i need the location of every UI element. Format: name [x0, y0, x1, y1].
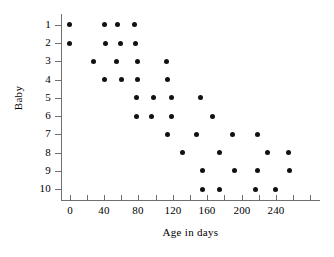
- data-point: [132, 22, 137, 27]
- y-axis-tick-label: 9: [11, 165, 51, 176]
- data-point: [287, 168, 292, 173]
- data-point: [135, 59, 140, 64]
- data-point: [169, 114, 174, 119]
- data-point: [135, 77, 140, 82]
- data-point: [102, 77, 107, 82]
- data-point: [134, 114, 139, 119]
- y-axis-tick-label: 10: [11, 183, 51, 194]
- data-point: [133, 41, 138, 46]
- y-axis-tick-label: 3: [11, 55, 51, 66]
- scatter-chart-figure: 12345678910 04080120160200240 Baby Age i…: [0, 0, 334, 257]
- x-axis-title: Age in days: [61, 226, 320, 238]
- data-point: [67, 41, 72, 46]
- x-axis-tick-label: 240: [256, 204, 296, 216]
- data-point: [151, 95, 156, 100]
- data-point: [180, 150, 185, 155]
- x-axis-tick-label: 160: [187, 204, 227, 216]
- plot-area: [61, 14, 319, 200]
- y-axis-tick-label: 2: [11, 37, 51, 48]
- data-point: [149, 114, 154, 119]
- data-point: [194, 132, 199, 137]
- data-point: [119, 77, 124, 82]
- data-point: [255, 168, 260, 173]
- x-axis-tick-label: 80: [118, 204, 158, 216]
- data-point: [165, 77, 170, 82]
- data-point: [198, 95, 203, 100]
- y-axis-tick-label: 1: [11, 19, 51, 30]
- data-point: [91, 59, 96, 64]
- y-axis-tick-label: 8: [11, 147, 51, 158]
- data-point: [265, 150, 270, 155]
- data-point: [286, 150, 291, 155]
- data-point: [232, 168, 237, 173]
- data-point: [165, 132, 170, 137]
- data-point: [115, 22, 120, 27]
- y-axis-tick-label: 7: [11, 128, 51, 139]
- data-point: [200, 187, 205, 192]
- data-point: [255, 132, 260, 137]
- data-point: [217, 187, 222, 192]
- y-axis-title: Baby: [12, 68, 24, 128]
- data-point: [230, 132, 235, 137]
- data-point: [273, 187, 278, 192]
- data-point: [217, 150, 222, 155]
- data-point: [114, 59, 119, 64]
- data-point: [253, 187, 258, 192]
- data-point: [200, 168, 205, 173]
- data-point: [118, 41, 123, 46]
- data-point: [210, 114, 215, 119]
- data-point: [103, 41, 108, 46]
- data-point: [67, 22, 72, 27]
- data-point: [102, 22, 107, 27]
- data-point: [134, 95, 139, 100]
- data-point: [164, 59, 169, 64]
- data-point: [169, 95, 174, 100]
